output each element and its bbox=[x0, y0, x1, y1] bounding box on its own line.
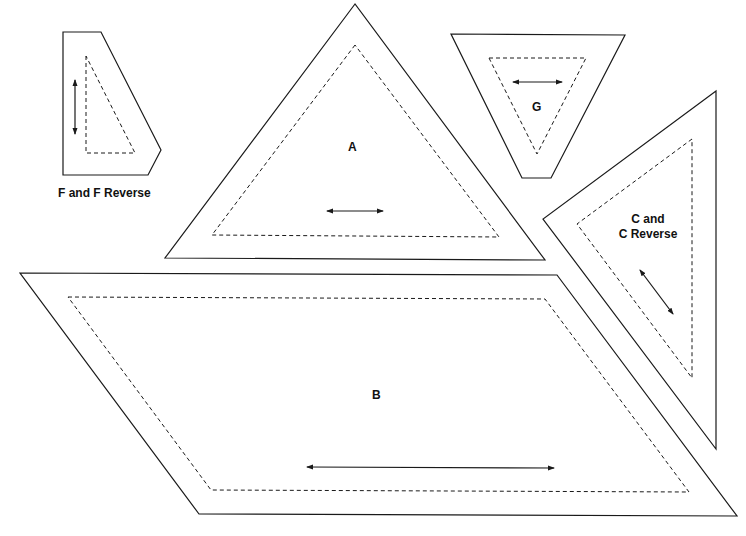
piece-f-cut-line bbox=[63, 32, 161, 175]
piece-f-label: F and F Reverse bbox=[58, 186, 151, 201]
piece-c-label-line1: C and bbox=[608, 212, 688, 227]
piece-f bbox=[63, 32, 161, 175]
template-sheet bbox=[0, 0, 746, 536]
piece-c-label-line2: C Reverse bbox=[608, 227, 688, 242]
piece-a-label: A bbox=[348, 140, 357, 155]
piece-b-label: B bbox=[372, 388, 381, 403]
piece-c-label: C and C Reverse bbox=[608, 212, 688, 242]
piece-g-label: G bbox=[532, 100, 541, 115]
